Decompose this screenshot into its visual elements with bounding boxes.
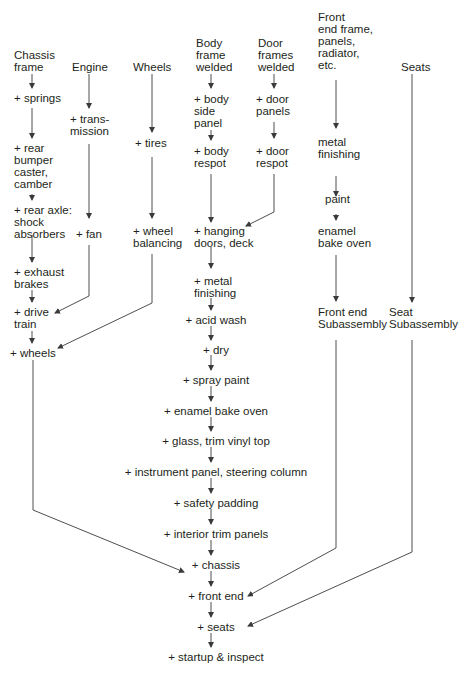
- step-rear-bumper: + rear bumper caster, camber: [14, 142, 53, 190]
- step-front-paint: paint: [325, 193, 350, 205]
- assembly-flow-diagram: Chassis frame + springs + rear bumper ca…: [0, 0, 466, 676]
- wheels-header: Wheels: [133, 61, 171, 73]
- step-front-metal-finishing: metal finishing: [318, 136, 360, 160]
- front-end-header: Front end frame, panels, radiator, etc.: [318, 11, 373, 71]
- step-acid-wash: + acid wash: [185, 314, 246, 326]
- step-interior-trim: + interior trim panels: [164, 528, 269, 540]
- step-body-respot: + body respot: [194, 145, 229, 169]
- step-body-side-panel: + body side panel: [194, 93, 229, 129]
- step-drive-train: + drive train: [14, 306, 49, 330]
- step-door-panels: + door panels: [256, 93, 290, 117]
- step-hanging-doors: + hanging doors, deck: [194, 225, 253, 249]
- step-enamel-bake-oven: + enamel bake oven: [164, 405, 268, 417]
- step-chassis: + chassis: [192, 559, 240, 571]
- step-front-enamel-bake: enamel bake oven: [318, 225, 371, 249]
- connector-lines: [0, 0, 466, 676]
- step-instrument-panel: + instrument panel, steering column: [125, 466, 308, 478]
- step-dry: + dry: [203, 344, 229, 356]
- chassis-frame-header: Chassis frame: [14, 49, 55, 73]
- step-startup-inspect: + startup & inspect: [168, 651, 264, 663]
- step-rear-axle: + rear axle: shock absorbers: [14, 204, 72, 240]
- step-transmission: + trans- mission: [70, 113, 109, 137]
- step-wheels: + wheels: [10, 347, 56, 359]
- seats-header: Seats: [401, 61, 430, 73]
- step-spray-paint: + spray paint: [183, 374, 249, 386]
- step-safety-padding: + safety padding: [174, 497, 259, 509]
- step-tires: + tires: [135, 137, 167, 149]
- step-glass-trim: + glass, trim vinyl top: [162, 435, 270, 447]
- step-seats: + seats: [197, 621, 234, 633]
- step-front-end: + front end: [188, 590, 243, 602]
- step-exhaust-brakes: + exhaust brakes: [14, 266, 64, 290]
- step-fan: + fan: [76, 228, 102, 240]
- step-door-respot: + door respot: [256, 145, 289, 169]
- seat-subassembly: Seat Subassembly: [389, 306, 458, 330]
- front-end-subassembly: Front end Subassembly: [318, 306, 387, 330]
- step-springs: + springs: [14, 92, 61, 104]
- step-wheel-balancing: + wheel balancing: [133, 225, 182, 249]
- door-frames-header: Door frames welded: [258, 37, 294, 73]
- body-frame-header: Body frame welded: [196, 37, 232, 73]
- step-metal-finishing: + metal finishing: [194, 275, 236, 299]
- engine-header: Engine: [72, 61, 108, 73]
